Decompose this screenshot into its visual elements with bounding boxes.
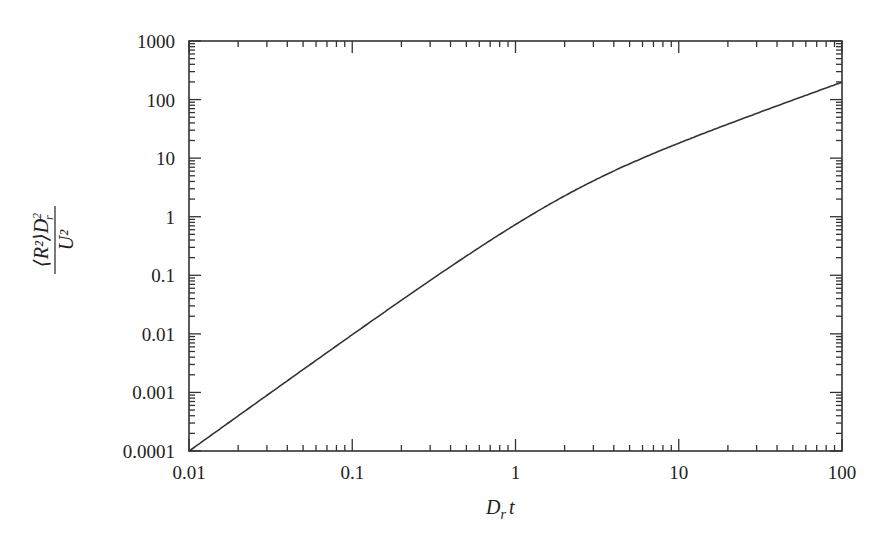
x-axis-label: Drt bbox=[485, 496, 515, 522]
svg-text:⟨R²⟩D2r: ⟨R²⟩D2r bbox=[30, 213, 56, 267]
y-tick-label: 0.0001 bbox=[123, 441, 175, 462]
svg-text:U²: U² bbox=[55, 229, 77, 250]
y-axis-label: ⟨R²⟩D2r U² bbox=[30, 206, 77, 274]
axis-ticks bbox=[189, 41, 842, 451]
x-tick-labels: 0.010.1110100 bbox=[172, 462, 856, 483]
x-tick-label: 1 bbox=[511, 462, 521, 483]
y-tick-label: 0.1 bbox=[151, 265, 175, 286]
x-tick-label: 0.1 bbox=[340, 462, 364, 483]
x-tick-label: 100 bbox=[828, 462, 857, 483]
chart: 0.00010.0010.010.11101001000 0.010.11101… bbox=[0, 0, 893, 556]
y-tick-label: 0.001 bbox=[132, 382, 175, 403]
x-tick-label: 0.01 bbox=[172, 462, 205, 483]
y-tick-labels: 0.00010.0010.010.11101001000 bbox=[123, 31, 175, 462]
data-line bbox=[189, 82, 842, 451]
x-tick-label: 10 bbox=[669, 462, 688, 483]
y-tick-label: 10 bbox=[156, 148, 175, 169]
y-tick-label: 1 bbox=[166, 207, 176, 228]
plot-frame bbox=[189, 41, 842, 451]
y-tick-label: 1000 bbox=[137, 31, 175, 52]
y-tick-label: 100 bbox=[147, 90, 176, 111]
y-tick-label: 0.01 bbox=[142, 324, 175, 345]
